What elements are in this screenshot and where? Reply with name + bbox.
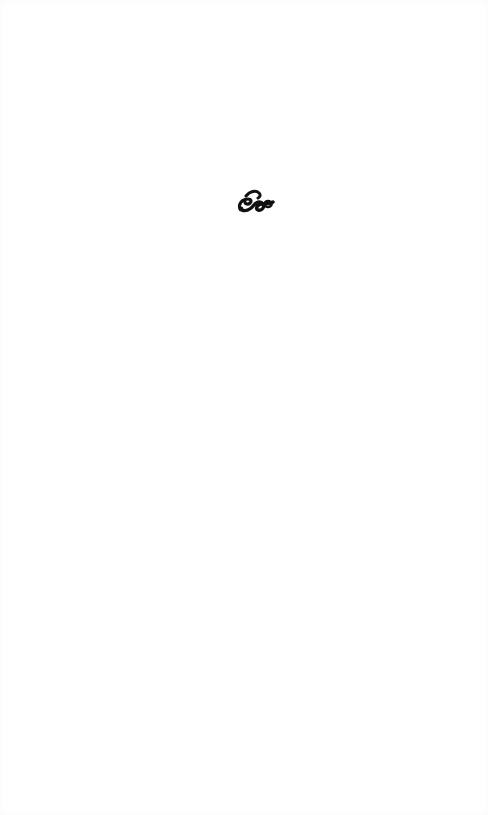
splash-screen	[0, 0, 488, 815]
app-logo	[236, 187, 276, 215]
flourish-logo-icon	[236, 187, 276, 215]
